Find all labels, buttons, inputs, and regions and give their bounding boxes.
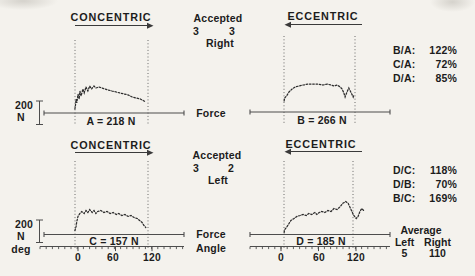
ratio-label: B/A: (393, 44, 415, 58)
ratio-row: D/B:70% (393, 178, 457, 192)
ratio-label: D/B: (393, 178, 415, 192)
force-curve-d (284, 202, 364, 233)
ratio-value: 169% (429, 192, 457, 206)
ratio-block-top: B/A:122% C/A:72% D/A:85% (393, 44, 457, 85)
scan-artifact (0, 0, 58, 10)
scale-bars (36, 101, 43, 243)
concentric-top-arrow (75, 23, 154, 29)
ratio-label: B/C: (393, 192, 415, 206)
scale-bar-top (36, 101, 43, 125)
scalebar-bottom-value: 200 (15, 219, 33, 230)
force-curve-a (75, 86, 146, 109)
ratio-row: C/A:72% (393, 58, 457, 72)
average-left-value: 5 (388, 248, 421, 259)
accepted-bottom-title: Accepted (193, 150, 242, 161)
accepted-top-left-count: 3 (193, 26, 199, 37)
angle-tick-left-0: 0 (75, 252, 81, 263)
force-curve-c (75, 210, 146, 231)
eccentric-top-label: ECCENTRIC (287, 11, 358, 22)
average-title: Average (388, 225, 454, 237)
eccentric-bottom-label: ECCENTRIC (285, 139, 356, 150)
angle-label: Angle (196, 243, 226, 254)
accepted-top-title: Accepted (194, 13, 243, 24)
ratio-label: C/A: (393, 58, 415, 72)
force-label-top: Force (196, 108, 226, 119)
scalebar-bottom-unit: N (17, 231, 25, 242)
ratio-value: 122% (429, 44, 457, 58)
scan-artifact (430, 0, 475, 12)
scalebar-top-unit: N (17, 112, 25, 123)
ratio-row: D/C:118% (393, 164, 457, 178)
ratio-value: 118% (430, 164, 457, 178)
scale-bar-bottom (36, 220, 43, 243)
panel-c-label: C = 157 N (89, 236, 138, 247)
ratio-block-bottom: D/C:118% D/B:70% B/C:169% (393, 164, 457, 205)
accepted-top-right-count: 3 (229, 26, 235, 37)
angle-tick-right-0: 0 (278, 252, 284, 263)
ratio-value: 70% (435, 178, 457, 192)
force-label-bottom: Force (196, 229, 226, 240)
accepted-bottom-right-count: 2 (228, 163, 234, 174)
accepted-bottom-side: Left (208, 175, 228, 186)
ratio-row: B/A:122% (393, 44, 457, 58)
concentric-bottom-label: CONCENTRIC (71, 140, 152, 151)
ratio-label: D/C: (393, 164, 415, 178)
angle-tick-left-120: 120 (143, 252, 161, 263)
ratio-value: 72% (435, 58, 457, 72)
average-right-value: 110 (421, 248, 454, 259)
average-block: Average Left Right 5 110 (388, 225, 454, 259)
panel-a-label: A = 218 N (87, 116, 136, 127)
panel-b-label: B = 266 N (297, 115, 346, 126)
angle-tick-right-120: 120 (347, 252, 365, 263)
ratio-row: B/C:169% (393, 192, 457, 206)
ratio-label: D/A: (393, 72, 415, 86)
accepted-top-side: Right (206, 38, 234, 49)
concentric-top-label: CONCENTRIC (71, 12, 152, 23)
panel-d-label: D = 185 N (296, 236, 345, 247)
scalebar-top-value: 200 (15, 100, 33, 111)
ratio-value: 85% (435, 72, 457, 86)
accepted-bottom-left-count: 3 (193, 163, 199, 174)
angle-tick-left-60: 60 (107, 252, 119, 263)
ratio-row: D/A:85% (393, 72, 457, 86)
force-curve-b (284, 84, 354, 101)
angle-tick-right-60: 60 (313, 252, 325, 263)
deg-unit-label: deg (11, 244, 30, 255)
eccentric-top-arrow (285, 22, 363, 28)
